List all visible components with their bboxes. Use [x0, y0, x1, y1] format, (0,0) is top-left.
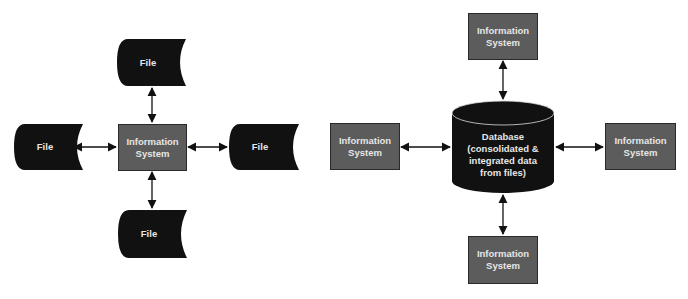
information-system-top-box: Information System	[468, 13, 538, 60]
information-system-bottom-label: Information System	[469, 237, 537, 283]
information-system-right-box: Information System	[605, 123, 676, 170]
information-system-left-box: Information System	[330, 123, 400, 170]
file-label-bottom: File	[118, 210, 180, 258]
information-system-bottom-box: Information System	[468, 236, 538, 284]
file-label-right: File	[229, 124, 291, 170]
file-label-left: File	[14, 124, 76, 170]
file-label-top: File	[117, 39, 179, 86]
information-system-left-label: Information System	[331, 124, 399, 169]
database-label: Database (consolidated & integrated data…	[452, 127, 554, 183]
information-system-center-box: Information System	[118, 124, 187, 171]
information-system-center-label: Information System	[119, 125, 186, 170]
information-system-top-label: Information System	[469, 14, 537, 59]
information-system-right-label: Information System	[606, 124, 675, 169]
